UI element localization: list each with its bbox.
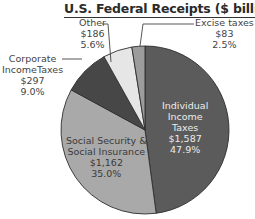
label-excise-pct: 2.5% bbox=[195, 39, 254, 50]
label-excise-name: Excise taxes bbox=[195, 17, 254, 28]
label-excise: Excise taxes $83 2.5% bbox=[195, 17, 254, 50]
label-individual-name1: Individual bbox=[162, 100, 208, 111]
label-corporate-name2: IncomeTaxes bbox=[2, 64, 63, 75]
label-social-pct: 35.0% bbox=[66, 168, 147, 179]
label-individual: Individual Income Taxes $1,587 47.9% bbox=[162, 100, 208, 155]
label-individual-name2: Income bbox=[162, 111, 208, 122]
label-corporate: Corporate IncomeTaxes $297 9.0% bbox=[2, 53, 63, 97]
label-other: Other $186 5.6% bbox=[79, 17, 106, 50]
label-corporate-name1: Corporate bbox=[2, 53, 63, 64]
label-social-name1: Social Security & bbox=[66, 135, 147, 146]
label-other-name: Other bbox=[79, 17, 106, 28]
label-corporate-value: $297 bbox=[2, 75, 63, 86]
label-individual-pct: 47.9% bbox=[162, 144, 208, 155]
label-other-value: $186 bbox=[79, 28, 106, 39]
label-social-name2: Social Insurance bbox=[66, 146, 147, 157]
label-individual-name3: Taxes bbox=[162, 122, 208, 133]
leader-excise bbox=[140, 24, 194, 46]
label-corporate-pct: 9.0% bbox=[2, 86, 63, 97]
label-social: Social Security & Social Insurance $1,16… bbox=[66, 135, 147, 179]
label-individual-value: $1,587 bbox=[162, 133, 208, 144]
label-other-pct: 5.6% bbox=[79, 39, 106, 50]
label-social-value: $1,162 bbox=[66, 157, 147, 168]
label-excise-value: $83 bbox=[195, 28, 254, 39]
